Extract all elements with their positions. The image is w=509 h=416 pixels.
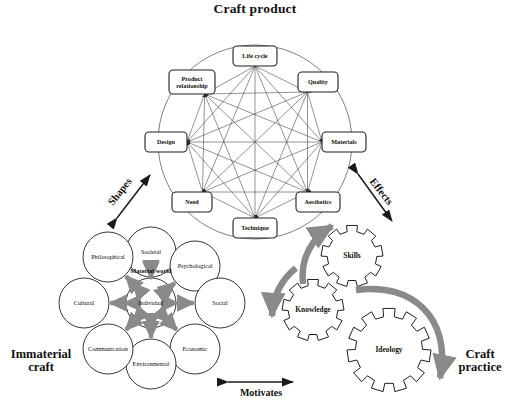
gear-label-skills: Skills: [311, 252, 393, 260]
bubble-arrow-psychological: [171, 283, 174, 286]
octagon-node-label-materials: Materials: [318, 139, 370, 146]
octagon-node-label-quality: Quality: [294, 79, 342, 86]
gear-label-knowledge: Knowledge: [272, 306, 354, 314]
octagon-node-label-design: Design: [141, 139, 191, 146]
octagon-node-label-product-relationship: Product relationship: [165, 76, 219, 89]
bubble-label-psychological: Psychological: [162, 263, 228, 270]
octagon-node-label-aesthetics: Aesthetics: [292, 199, 344, 206]
bubble-arrow-economic: [169, 322, 176, 330]
bubble-label-cultural: Cultural: [51, 300, 117, 307]
bubble-label-social: Social: [187, 300, 253, 307]
octagon-node-label-life-cycle: Life cycle: [229, 53, 281, 60]
craft-practice-label: Craft practice: [452, 348, 508, 374]
bubble-label-individual: Individual: [118, 300, 184, 307]
octagon-node-label-need: Need: [168, 199, 216, 206]
bubble-label-environmental: Environmental: [118, 361, 184, 368]
bubble-arrow-philosophical: [126, 276, 133, 283]
bubble-label-economic: Economic: [162, 346, 228, 353]
diagram-canvas: Craft product Immaterial craft Craft pra…: [0, 0, 509, 416]
motivates-label: Motivates: [216, 388, 306, 399]
bubble-label-communication: Communication: [75, 346, 141, 353]
bubble-arrow-communication: [126, 322, 133, 329]
bubble-label-philosophical: Philosophical: [75, 254, 141, 261]
craft-product-title: Craft product: [205, 2, 305, 16]
gear-label-ideology: Ideology: [337, 346, 441, 354]
immaterial-craft-label: Immaterial craft: [4, 348, 78, 374]
octagon-node-label-technique: Technique: [229, 225, 281, 232]
